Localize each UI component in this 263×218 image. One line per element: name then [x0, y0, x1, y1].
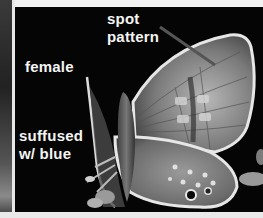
figure-frame: spot pattern female suffused w/ blue: [0, 0, 263, 218]
bottom-border: [0, 212, 263, 218]
label-female: female: [25, 59, 74, 74]
label-spot: spot: [107, 11, 139, 26]
label-with-blue: w/ blue: [19, 146, 71, 161]
butterfly-photo: spot pattern female suffused w/ blue: [15, 7, 263, 212]
label-suffused: suffused: [19, 128, 83, 143]
adjacent-photo-edge: [0, 0, 12, 218]
label-pattern: pattern: [107, 29, 159, 44]
